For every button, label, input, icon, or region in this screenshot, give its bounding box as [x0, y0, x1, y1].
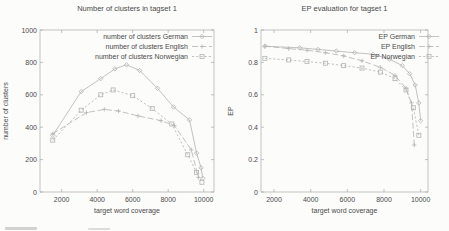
x-tick-label: 10000: [194, 196, 214, 203]
y-tick-label: 0: [254, 189, 258, 196]
legend-label: number of clusters German: [103, 33, 188, 40]
y-tick-label: 400: [25, 124, 37, 131]
x-tick-label: 4000: [89, 196, 105, 203]
y-tick-label: 0.8: [248, 59, 258, 66]
ep-line-chart: 20004000600080001000000.20.40.60.81EP ev…: [225, 0, 449, 231]
y-tick-label: 0: [33, 189, 37, 196]
legend-label: number of clusters Norwegian: [95, 53, 188, 61]
chart-svg: 20004000600080001000000.20.40.60.81EP ev…: [225, 0, 449, 231]
legend-label: EP Norwegian: [370, 53, 415, 61]
series-plus: [51, 107, 201, 179]
x-tick-label: 8000: [160, 196, 176, 203]
cutoff-caption-artifact: [88, 228, 110, 230]
y-axis-label: EP: [227, 106, 234, 116]
y-tick-label: 200: [25, 156, 37, 163]
x-tick-label: 10000: [411, 196, 431, 203]
series-line: [53, 65, 203, 178]
series-line: [53, 90, 202, 182]
y-tick-label: 1000: [21, 27, 37, 34]
x-tick-label: 6000: [125, 196, 141, 203]
legend-label: EP German: [379, 33, 416, 40]
y-tick-label: 0.2: [248, 156, 258, 163]
legend-label: number of clusters English: [106, 43, 189, 51]
x-tick-label: 2000: [54, 196, 70, 203]
x-tick-label: 4000: [303, 196, 319, 203]
y-tick-label: 600: [25, 91, 37, 98]
y-tick-label: 0.4: [248, 124, 258, 131]
clusters-line-chart: 20004000600080001000002004006008001000Nu…: [0, 0, 225, 231]
x-tick-label: 8000: [376, 196, 392, 203]
series-square: [263, 56, 421, 137]
y-axis-label: number of clusters: [2, 82, 9, 140]
x-axis-label: target word coverage: [94, 207, 160, 215]
legend-label: EP English: [381, 43, 415, 51]
series-line: [265, 46, 415, 145]
chart-title: Number of clusters in tagset 1: [77, 4, 177, 13]
square-marker: [186, 153, 190, 157]
y-tick-label: 0.6: [248, 91, 258, 98]
square-marker: [131, 94, 135, 98]
series-line: [53, 109, 199, 177]
chart-svg: 20004000600080001000002004006008001000Nu…: [0, 0, 225, 231]
x-axis-label: target word coverage: [312, 207, 378, 215]
x-tick-label: 6000: [340, 196, 356, 203]
cutoff-caption-artifact: [5, 227, 37, 230]
chart-title: EP evaluation for tagset 1: [302, 4, 388, 13]
x-tick-label: 2000: [266, 196, 282, 203]
series-diamond: [51, 63, 205, 181]
square-marker: [200, 180, 204, 184]
y-tick-label: 800: [25, 59, 37, 66]
series-line: [265, 58, 419, 135]
y-tick-label: 1: [254, 27, 258, 34]
